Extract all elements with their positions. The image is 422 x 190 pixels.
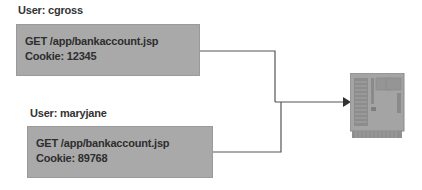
server-icon xyxy=(350,73,405,139)
connector-maryjane xyxy=(213,102,281,152)
connector-cgross xyxy=(200,51,275,102)
